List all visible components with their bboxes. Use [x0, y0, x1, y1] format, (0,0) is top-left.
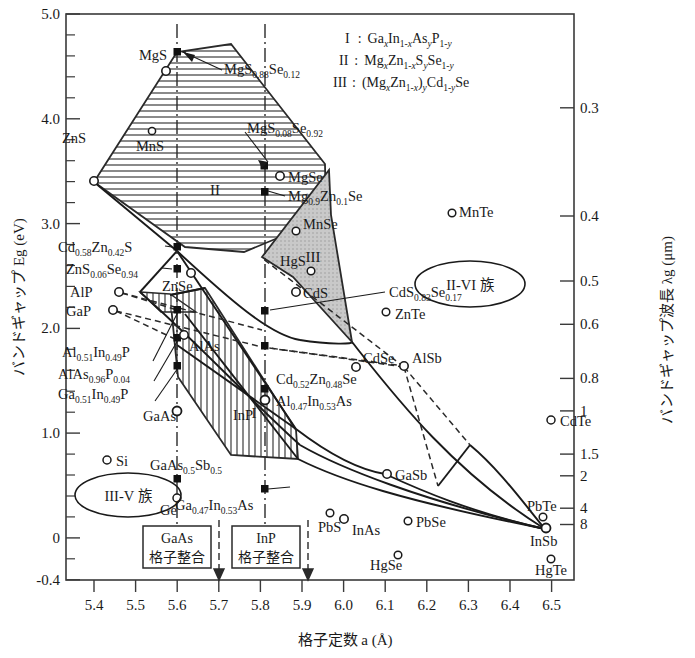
marker-Ga047In053As	[261, 485, 269, 493]
marker-ZnSe	[187, 269, 195, 277]
x-axis-title: 格子定数 a (Å)	[298, 632, 393, 649]
wtick-4: 4	[580, 500, 588, 516]
marker-Cd052Zn048Se	[261, 342, 269, 350]
label-HgS: HgS	[280, 253, 306, 269]
ytick-4.0: 4.0	[41, 111, 60, 127]
marker-PbSe	[404, 517, 412, 525]
xtick-5.5: 5.5	[126, 597, 145, 613]
wtick-8: 8	[580, 516, 588, 532]
label-ZnS: ZnS	[62, 130, 86, 146]
marker-GaAs05Sb05	[174, 475, 182, 483]
marker-MnS	[148, 127, 155, 134]
label-MnTe: MnTe	[459, 204, 493, 220]
ytick-neg0.4: -0.4	[36, 572, 60, 588]
label-MnSe: MnSe	[303, 216, 338, 232]
marker-PbTe	[539, 513, 547, 521]
marker-InSb	[542, 524, 551, 533]
label-GaP: GaP	[66, 303, 91, 319]
label-CdSe: CdSe	[363, 350, 394, 366]
marker-MnTe	[448, 209, 456, 217]
ytick-2.0: 2.0	[41, 320, 60, 336]
label-ZnSe: ZnSe	[162, 278, 193, 294]
group-III-V-label: III-V 族	[104, 488, 152, 504]
label-PbS: PbS	[318, 519, 341, 535]
y-axis-title-left: バンドギャップ Eg (eV)	[11, 218, 28, 376]
ytick-1.0: 1.0	[41, 425, 60, 441]
marker-HgS	[307, 267, 315, 275]
marker-GaSb	[383, 470, 391, 478]
marker-Mg09Zn01Se	[261, 188, 269, 196]
gaas-box-line2: 格子整合	[149, 550, 205, 565]
marker-Al047In053As	[261, 385, 269, 393]
label-HgSe: HgSe	[370, 557, 402, 573]
inp-box-line2: 格子整合	[238, 550, 294, 565]
marker-Cd058Zn042S	[174, 243, 182, 251]
marker-CdS083Se017	[261, 307, 269, 315]
label-GaAs: GaAs	[143, 408, 176, 424]
inp-lattice-match-box: InP 格子整合	[232, 526, 300, 568]
xtick-6.3: 6.3	[459, 597, 478, 613]
xtick-5.4: 5.4	[85, 597, 104, 613]
label-PbTe: PbTe	[527, 498, 557, 514]
label-ZnTe: ZnTe	[395, 306, 425, 322]
xtick-6.0: 6.0	[334, 597, 353, 613]
region-II-label: II	[210, 182, 220, 198]
label-InP: InP	[233, 407, 253, 423]
label-AlAs: AlAs	[189, 338, 220, 354]
wtick-0.6: 0.6	[580, 316, 599, 332]
wtick-0.4: 0.4	[580, 208, 599, 224]
marker-AlSb	[400, 362, 408, 370]
label-CdS: CdS	[303, 285, 328, 301]
marker-ZnS	[90, 177, 98, 185]
marker-AlP	[115, 288, 123, 296]
marker-ZnTe	[382, 308, 390, 316]
label-PbSe: PbSe	[416, 514, 446, 530]
label-CdTe: CdTe	[560, 413, 591, 429]
xtick-5.8: 5.8	[251, 597, 270, 613]
xtick-6.2: 6.2	[417, 597, 436, 613]
marker-Si	[103, 456, 111, 464]
marker-CdSe	[352, 363, 360, 371]
marker-ZnS006Se094	[174, 265, 182, 273]
inp-box-line1: InP	[256, 531, 276, 546]
marker-PbS	[326, 509, 334, 517]
label-InAs: InAs	[352, 522, 381, 538]
marker-MgS088Se012	[174, 48, 182, 56]
marker-InP	[261, 396, 270, 405]
ytick-3.0: 3.0	[41, 216, 60, 232]
wtick-0.3: 0.3	[580, 100, 599, 116]
xtick-5.7: 5.7	[209, 597, 228, 613]
group-II-VI-label: II-VI 族	[446, 277, 494, 293]
xtick-5.6: 5.6	[168, 597, 187, 613]
bandgap-lattice-constant-chart: 5.0 4.0 3.0 2.0 1.0 0 -0.4 バンドギャップ Eg (e…	[0, 0, 695, 658]
region-III-label: III	[306, 249, 321, 265]
label-MnS: MnS	[136, 138, 164, 154]
label-GaSb: GaSb	[395, 467, 427, 483]
marker-MgSe	[276, 172, 284, 180]
label-AlSb: AlSb	[412, 350, 442, 366]
marker-CdS	[292, 288, 300, 296]
label-AlP: AlP	[70, 284, 93, 300]
wtick-0.5: 0.5	[580, 273, 599, 289]
gaas-box-line1: GaAs	[161, 531, 193, 546]
ytick-5.0: 5.0	[41, 6, 60, 22]
xtick-6.1: 6.1	[376, 597, 395, 613]
xtick-5.9: 5.9	[293, 597, 312, 613]
label-InSb: InSb	[530, 533, 557, 549]
marker-GaP	[109, 306, 117, 314]
label-MgS: MgS	[139, 47, 167, 63]
xtick-6.5: 6.5	[542, 597, 561, 613]
wtick-1.5: 1.5	[580, 446, 599, 462]
label-Si: Si	[116, 453, 128, 469]
marker-CdTe	[547, 416, 555, 424]
wtick-2: 2	[580, 468, 588, 484]
label-HgTe: HgTe	[535, 562, 567, 578]
gaas-lattice-match-box: GaAs 格子整合	[143, 526, 211, 568]
xtick-6.4: 6.4	[501, 597, 520, 613]
ytick-0: 0	[53, 530, 61, 546]
chart-root: 5.0 4.0 3.0 2.0 1.0 0 -0.4 バンドギャップ Eg (e…	[0, 0, 695, 658]
label-MgSe: MgSe	[288, 169, 323, 185]
marker-MnSe	[292, 227, 300, 235]
wtick-0.8: 0.8	[580, 370, 599, 386]
y-axis-title-right: バンドギャップ波長 λg (μm)	[659, 236, 676, 424]
